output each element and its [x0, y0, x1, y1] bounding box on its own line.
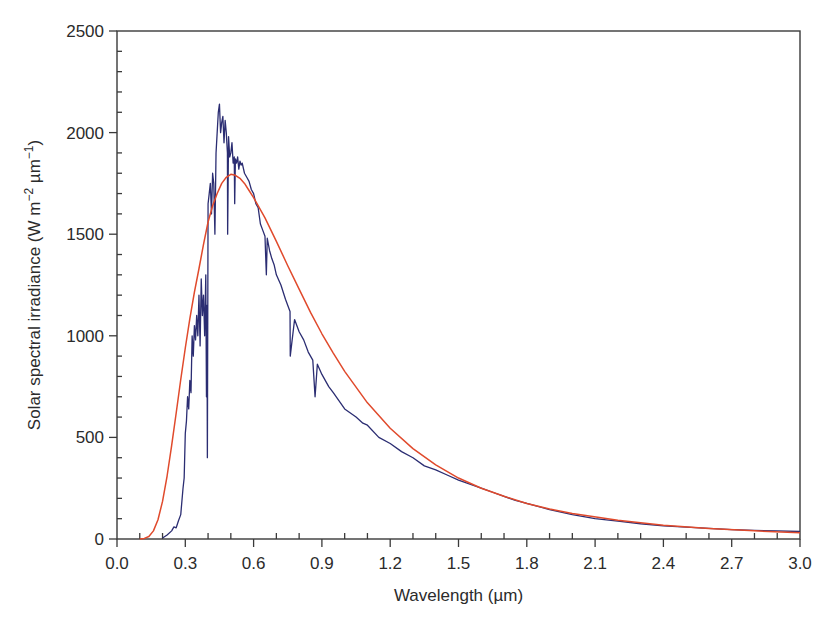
x-tick-label: 0.0	[105, 554, 129, 573]
y-tick-label: 500	[76, 428, 104, 447]
y-axis-title-suffix: )	[25, 140, 44, 146]
measured-spectrum-line	[163, 104, 800, 538]
x-axis-title: Wavelength (µm)	[394, 586, 523, 605]
y-tick-label: 1500	[66, 225, 104, 244]
y-tick-label: 0	[95, 530, 104, 549]
y-axis-title: Solar spectral irradiance (W m−2 µm−1)	[22, 140, 44, 430]
x-tick-label: 1.2	[378, 554, 402, 573]
x-tick-label: 1.8	[515, 554, 539, 573]
y-axis-title-sup2: −1	[22, 145, 36, 159]
y-tick-label: 2500	[66, 22, 104, 41]
y-axis-title-sup1: −2	[22, 188, 36, 202]
y-axis: 05001000150020002500	[66, 22, 122, 549]
y-axis-title-mid: µm	[25, 159, 44, 188]
x-tick-label: 0.9	[310, 554, 334, 573]
x-tick-label: 2.4	[652, 554, 676, 573]
x-tick-label: 2.7	[720, 554, 744, 573]
solar-spectrum-chart: 0.00.30.60.91.21.51.82.12.42.73.0 050010…	[0, 0, 833, 628]
y-tick-label: 1000	[66, 327, 104, 346]
x-tick-label: 3.0	[788, 554, 812, 573]
x-tick-label: 0.6	[242, 554, 266, 573]
x-tick-label: 1.5	[447, 554, 471, 573]
y-tick-label: 2000	[66, 124, 104, 143]
x-tick-label: 0.3	[173, 554, 197, 573]
x-tick-label: 2.1	[583, 554, 607, 573]
series-layer	[140, 104, 800, 539]
y-axis-title-prefix: Solar spectral irradiance (W m	[25, 202, 44, 431]
